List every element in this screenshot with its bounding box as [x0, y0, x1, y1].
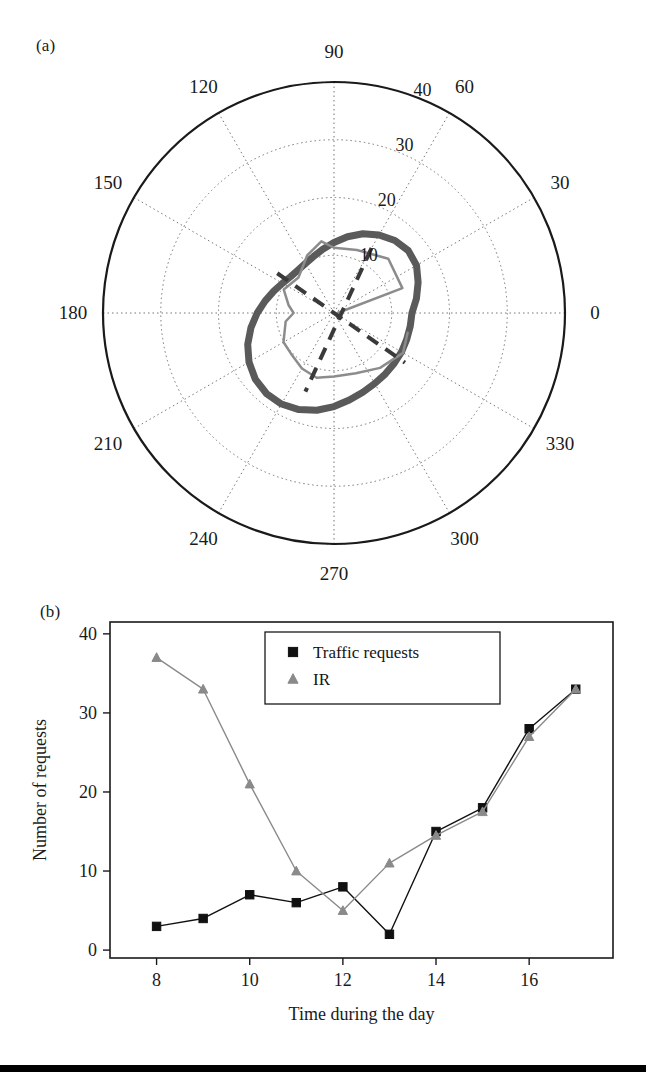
series-traffic-requests [152, 685, 580, 938]
polar-angle-label-150: 150 [94, 172, 123, 193]
y-tick-label-40: 40 [79, 624, 97, 644]
x-tick-label-12: 12 [334, 970, 352, 990]
data-point-marker [292, 866, 301, 875]
bottom-rule-divider [0, 1065, 646, 1072]
polar-radial-label-10: 10 [360, 245, 378, 265]
panel-a-polar-plot: (a) 0306090120150180210240270300330 1020… [0, 0, 646, 580]
data-point-marker [245, 779, 254, 788]
data-point-marker [199, 914, 207, 922]
polar-angle-label-60: 60 [455, 76, 474, 97]
polar-radial-label-20: 20 [378, 190, 396, 210]
y-axis-ticks: 010203040 [79, 624, 110, 960]
x-tick-label-10: 10 [241, 970, 259, 990]
chart-legend: Traffic requestsIR [265, 632, 500, 704]
polar-angle-label-120: 120 [189, 76, 218, 97]
x-tick-label-8: 8 [152, 970, 161, 990]
panel-b-label: (b) [40, 602, 60, 622]
panel-a-label: (a) [36, 36, 55, 56]
figure-container: (a) 0306090120150180210240270300330 1020… [0, 0, 646, 1087]
data-point-marker [292, 898, 300, 906]
data-point-marker [385, 858, 394, 867]
polar-angle-label-240: 240 [189, 528, 218, 549]
polar-angle-label-30: 30 [551, 172, 570, 193]
polar-angle-label-270: 270 [320, 563, 349, 580]
polar-radial-label-40: 40 [413, 80, 431, 100]
data-point-marker [385, 930, 393, 938]
x-axis-ticks: 810121416 [152, 958, 538, 990]
polar-angle-label-90: 90 [325, 41, 344, 62]
y-tick-label-20: 20 [79, 782, 97, 802]
data-point-marker [246, 891, 254, 899]
data-point-marker [199, 684, 208, 693]
legend-label-traffic-requests: Traffic requests [313, 643, 419, 662]
polar-angle-label-210: 210 [94, 433, 123, 454]
polar-angle-label-300: 300 [450, 528, 479, 549]
polar-chart-svg: 0306090120150180210240270300330 10203040 [0, 0, 646, 580]
x-axis-title: Time during the day [289, 1004, 435, 1024]
y-tick-label-30: 30 [79, 703, 97, 723]
polar-angle-label-0: 0 [590, 302, 600, 323]
panel-b-line-chart: (b) 810121416 010203040 Traffic requests… [0, 580, 646, 1050]
y-tick-label-10: 10 [79, 861, 97, 881]
x-tick-label-14: 14 [427, 970, 445, 990]
y-tick-label-0: 0 [88, 940, 97, 960]
data-point-marker [339, 883, 347, 891]
polar-radial-label-30: 30 [396, 135, 414, 155]
y-axis-title: Number of requests [30, 719, 50, 861]
legend-label-ir: IR [313, 670, 331, 689]
polar-angle-label-330: 330 [546, 433, 575, 454]
polar-angle-label-180: 180 [59, 302, 88, 323]
data-point-marker [152, 922, 160, 930]
line-chart-svg: 810121416 010203040 Traffic requestsIR T… [0, 580, 646, 1050]
polar-data-series [248, 234, 418, 410]
data-point-marker [288, 647, 297, 656]
data-point-marker [152, 653, 161, 662]
x-tick-label-16: 16 [520, 970, 538, 990]
